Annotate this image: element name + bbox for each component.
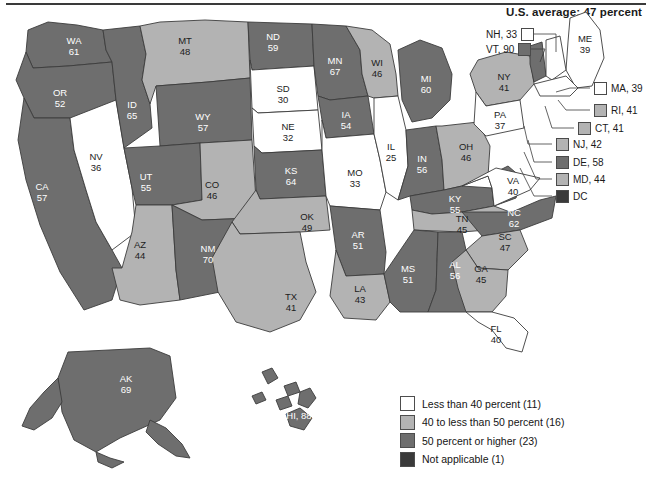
state-hi-island-0 <box>262 368 278 384</box>
legend-swatch-under40 <box>400 396 415 411</box>
callout-label: RI, 41 <box>611 105 638 116</box>
callout-md-44: MD, 44 <box>556 173 605 186</box>
state-ak-island-2 <box>96 452 124 468</box>
state-ne <box>252 108 322 153</box>
callout-nh-33: NH, 33 <box>486 28 534 41</box>
state-ak-island-1 <box>146 420 190 458</box>
legend: Less than 40 percent (11) 40 to less tha… <box>400 396 564 470</box>
state-ut <box>124 143 202 205</box>
legend-item: Not applicable (1) <box>400 452 564 467</box>
state-hi <box>298 388 316 408</box>
callout-leader <box>545 106 574 128</box>
callout-swatch <box>556 173 569 186</box>
callout-label: MD, 44 <box>573 174 605 185</box>
state-fl <box>466 312 528 352</box>
state-wa <box>26 22 112 68</box>
legend-swatch-mid40s <box>400 415 415 430</box>
callout-leader <box>558 100 590 110</box>
state-hi-island-2 <box>252 392 266 404</box>
state-hi-island-4 <box>286 408 312 430</box>
callout-swatch <box>556 156 569 169</box>
callout-swatch <box>594 82 607 95</box>
state-mi <box>398 40 452 122</box>
callout-ri-41: RI, 41 <box>594 104 638 117</box>
callout-dc: DC <box>556 190 587 203</box>
state-ia <box>318 96 374 138</box>
legend-label-mid40s: 40 to less than 50 percent (16) <box>422 416 564 428</box>
callout-ct-41: CT, 41 <box>578 122 624 135</box>
callout-label: CT, 41 <box>595 123 624 134</box>
callout-swatch <box>556 138 569 151</box>
legend-item: 50 percent or higher (23) <box>400 433 564 448</box>
callout-vt-90: VT, 90 <box>486 43 531 56</box>
callout-label: NJ, 42 <box>573 139 602 150</box>
callout-label: NH, 33 <box>486 29 517 40</box>
legend-label-not-applicable: Not applicable (1) <box>422 453 504 465</box>
callout-swatch <box>578 122 591 135</box>
callout-label: VT, 90 <box>486 44 514 55</box>
legend-swatch-over50 <box>400 433 415 448</box>
state-ks <box>254 146 326 199</box>
legend-item: Less than 40 percent (11) <box>400 396 564 411</box>
map-figure: U.S. average: 47 percent WA61OR52CA57NV3… <box>0 0 652 482</box>
state-ak-island-0 <box>22 378 62 430</box>
callout-nj-42: NJ, 42 <box>556 138 602 151</box>
callout-swatch <box>556 190 569 203</box>
callout-swatch <box>594 104 607 117</box>
state-me <box>566 12 604 88</box>
state-hi-island-1 <box>284 382 300 396</box>
state-tx <box>212 222 316 332</box>
state-vt <box>530 42 546 82</box>
legend-item: 40 to less than 50 percent (16) <box>400 415 564 430</box>
legend-label-under40: Less than 40 percent (11) <box>422 398 541 410</box>
state-hi-island-3 <box>276 396 292 410</box>
callout-swatch <box>518 43 531 56</box>
callout-ma-39: MA, 39 <box>594 82 643 95</box>
callout-label: MA, 39 <box>611 83 643 94</box>
callout-swatch <box>521 28 534 41</box>
legend-label-over50: 50 percent or higher (23) <box>422 435 538 447</box>
legend-swatch-not-applicable <box>400 452 415 467</box>
state-nd <box>248 22 314 70</box>
state-ms <box>384 230 438 312</box>
state-wy <box>156 78 252 146</box>
callout-de-58: DE, 58 <box>556 156 604 169</box>
callout-label: DE, 58 <box>573 157 604 168</box>
callout-leader <box>528 140 552 162</box>
callout-label: DC <box>573 191 587 202</box>
